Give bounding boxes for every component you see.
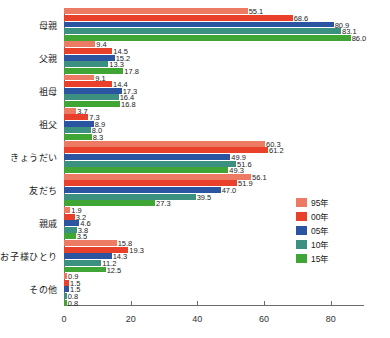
bar-group: きょうだい60.361.249.951.649.3	[64, 140, 364, 173]
x-tick-label: 0	[61, 314, 66, 324]
bar: 9.4	[64, 41, 95, 47]
bar: 11.2	[64, 260, 101, 266]
bar: 0.8	[64, 293, 67, 299]
bar-row: 0.8	[64, 293, 364, 300]
legend-label: 10年	[311, 238, 329, 250]
bar-row: 86.0	[64, 34, 364, 41]
legend-label: 95年	[311, 196, 329, 208]
bar: 17.3	[64, 88, 122, 94]
bar-row: 83.1	[64, 28, 364, 35]
x-tick-label: 20	[126, 314, 136, 324]
bar: 0.8	[64, 300, 67, 306]
bar-group: 祖父3.77.38.98.08.3	[64, 107, 364, 140]
bar: 49.3	[64, 167, 228, 173]
bar-row: 3.7	[64, 107, 364, 114]
bar-row: 1.5	[64, 286, 364, 293]
bar: 14.5	[64, 48, 112, 54]
horizontal-bar-chart: 020406080 母親55.168.680.983.186.0父親9.414.…	[0, 0, 390, 338]
category-label: その他	[29, 283, 58, 296]
bar-row: 0.9	[64, 273, 364, 280]
bar: 68.6	[64, 15, 293, 21]
category-label: お子様ひとり	[0, 250, 58, 263]
bar-row: 8.9	[64, 121, 364, 128]
bar: 0.9	[64, 273, 67, 279]
legend-item[interactable]: 05年	[296, 224, 329, 236]
legend-color-swatch	[296, 254, 307, 263]
bar-row: 51.6	[64, 160, 364, 167]
category-label: 母親	[39, 18, 58, 31]
bar: 39.5	[64, 194, 196, 200]
bar-group: 祖母9.114.417.316.416.8	[64, 74, 364, 107]
bar-row: 51.9	[64, 180, 364, 187]
bar: 17.8	[64, 68, 123, 74]
bar: 16.8	[64, 101, 120, 107]
bar-group: その他0.91.51.50.80.8	[64, 273, 364, 306]
bar: 1.5	[64, 280, 69, 286]
bar-row: 17.3	[64, 87, 364, 94]
bar-row: 14.5	[64, 48, 364, 55]
legend-color-swatch	[296, 212, 307, 221]
bar: 16.4	[64, 94, 119, 100]
category-label: 祖母	[39, 84, 58, 97]
legend-label: 00年	[311, 210, 329, 222]
bar: 3.7	[64, 108, 76, 114]
category-label: 親戚	[39, 217, 58, 230]
bar-row: 16.8	[64, 101, 364, 108]
bar-row: 80.9	[64, 21, 364, 28]
bar-row: 7.3	[64, 114, 364, 121]
bar-row: 61.2	[64, 147, 364, 154]
bar: 8.0	[64, 127, 91, 133]
bar-row: 17.8	[64, 68, 364, 75]
bar-row: 0.8	[64, 299, 364, 306]
category-label: 祖父	[39, 117, 58, 130]
bar: 60.3	[64, 141, 265, 147]
chart-legend: 95年00年05年10年15年	[296, 196, 329, 264]
bar: 86.0	[64, 35, 351, 41]
bar-row: 13.3	[64, 61, 364, 68]
legend-color-swatch	[296, 226, 307, 235]
bar: 80.9	[64, 22, 334, 28]
bar-row: 8.0	[64, 127, 364, 134]
legend-item[interactable]: 00年	[296, 210, 329, 222]
bar: 1.9	[64, 207, 70, 213]
bar: 3.2	[64, 214, 75, 220]
bar: 9.1	[64, 75, 94, 81]
bar-row: 9.1	[64, 74, 364, 81]
bar-row: 8.3	[64, 134, 364, 141]
bar-row: 56.1	[64, 174, 364, 181]
bar-row: 49.9	[64, 154, 364, 161]
bar: 3.5	[64, 233, 76, 239]
bar-row: 9.4	[64, 41, 364, 48]
bar-row: 1.5	[64, 279, 364, 286]
bar-row: 47.0	[64, 187, 364, 194]
category-label: きょうだい	[10, 150, 58, 163]
legend-color-swatch	[296, 198, 307, 207]
legend-label: 05年	[311, 224, 329, 236]
bar-value-label: 0.8	[68, 298, 78, 307]
legend-color-swatch	[296, 240, 307, 249]
bar-row: 14.4	[64, 81, 364, 88]
bar: 56.1	[64, 174, 251, 180]
bar: 7.3	[64, 114, 88, 120]
bar: 8.9	[64, 121, 94, 127]
bar: 3.8	[64, 227, 77, 233]
legend-item[interactable]: 95年	[296, 196, 329, 208]
x-tick-label: 80	[326, 314, 336, 324]
bar: 15.2	[64, 55, 115, 61]
bar-group: 母親55.168.680.983.186.0	[64, 8, 364, 41]
legend-item[interactable]: 10年	[296, 238, 329, 250]
bar: 51.9	[64, 180, 237, 186]
legend-label: 15年	[311, 252, 329, 264]
x-tick-label: 60	[259, 314, 269, 324]
bar: 49.9	[64, 154, 230, 160]
bar: 83.1	[64, 28, 341, 34]
legend-item[interactable]: 15年	[296, 252, 329, 264]
bar-group: 父親9.414.515.213.317.8	[64, 41, 364, 74]
bar-row: 12.5	[64, 266, 364, 273]
x-tick-label: 40	[192, 314, 202, 324]
bar: 14.4	[64, 81, 112, 87]
bar-row: 55.1	[64, 8, 364, 15]
bar-row: 60.3	[64, 140, 364, 147]
bar: 8.3	[64, 134, 92, 140]
bar: 55.1	[64, 8, 248, 14]
